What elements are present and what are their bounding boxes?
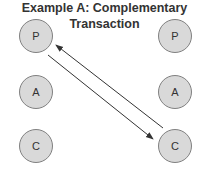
svg-text:P: P (32, 30, 39, 42)
svg-text:P: P (171, 30, 178, 42)
node-left-a: A (20, 76, 53, 109)
svg-text:C: C (32, 140, 40, 152)
svg-text:C: C (171, 140, 179, 152)
svg-text:A: A (171, 86, 179, 98)
node-left-c: C (20, 130, 53, 163)
node-right-p: P (159, 20, 192, 53)
node-right-a: A (159, 76, 192, 109)
transaction-diagram: P A C P A C (0, 0, 209, 173)
arrow-c-to-p (56, 45, 163, 128)
node-right-c: C (159, 130, 192, 163)
node-left-p: P (20, 20, 53, 53)
svg-text:A: A (32, 86, 40, 98)
arrow-p-to-c (48, 55, 153, 139)
